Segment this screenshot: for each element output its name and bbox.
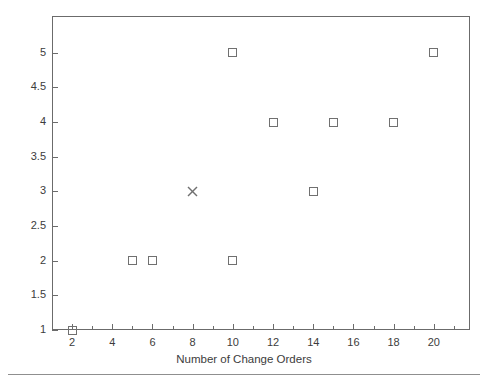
x-axis-tick-label: 12 [253, 336, 293, 349]
x-axis-minor-tick [253, 326, 254, 330]
y-axis-tick [52, 87, 58, 88]
y-axis-title-wrapper: Number of Conflicts [0, 16, 18, 330]
x-axis-minor-tick [213, 326, 214, 330]
data-point-square-marker[interactable] [309, 187, 318, 196]
x-axis-title: Number of Change Orders [0, 353, 488, 365]
data-point-square-marker[interactable] [228, 48, 237, 57]
x-axis-minor-tick [92, 326, 93, 330]
scatter-plot-figure: 246810121416182011.522.533.544.55 Number… [0, 0, 488, 370]
x-axis-minor-tick [132, 326, 133, 330]
y-axis-title: Number of Conflicts [4, 0, 20, 64]
data-point-x-marker[interactable] [187, 186, 198, 197]
x-axis-tick [112, 324, 113, 330]
data-point-square-marker[interactable] [389, 118, 398, 127]
y-axis-tick [52, 295, 58, 296]
x-axis-tick [313, 324, 314, 330]
x-axis-tick [394, 324, 395, 330]
x-axis-tick [434, 324, 435, 330]
y-axis-tick [52, 157, 58, 158]
x-axis-minor-tick [293, 326, 294, 330]
y-axis-tick [52, 330, 58, 331]
x-axis-tick [233, 324, 234, 330]
data-point-square-marker[interactable] [429, 48, 438, 57]
x-axis-tick [152, 324, 153, 330]
x-axis-minor-tick [454, 326, 455, 330]
data-point-square-marker[interactable] [68, 326, 77, 335]
x-axis-tick-label: 2 [52, 336, 92, 349]
x-axis-minor-tick [173, 326, 174, 330]
data-point-square-marker[interactable] [148, 256, 157, 265]
y-axis-tick [52, 226, 58, 227]
data-point-square-marker[interactable] [269, 118, 278, 127]
x-axis-tick-label: 14 [293, 336, 333, 349]
data-point-square-marker[interactable] [128, 256, 137, 265]
x-axis-tick-label: 18 [374, 336, 414, 349]
y-axis-tick [52, 53, 58, 54]
x-axis-minor-tick [374, 326, 375, 330]
x-axis-minor-tick [333, 326, 334, 330]
chart-page: 246810121416182011.522.533.544.55 Number… [0, 0, 488, 382]
y-axis-tick [52, 261, 58, 262]
plot-frame [52, 16, 470, 330]
x-axis-tick-label: 16 [333, 336, 373, 349]
x-axis-tick-label: 6 [132, 336, 172, 349]
data-point-square-marker[interactable] [329, 118, 338, 127]
x-axis-tick [193, 324, 194, 330]
x-axis-tick-label: 10 [213, 336, 253, 349]
data-point-square-marker[interactable] [228, 256, 237, 265]
y-axis-tick [52, 191, 58, 192]
x-axis-tick [353, 324, 354, 330]
x-axis-tick-label: 20 [414, 336, 454, 349]
x-axis-tick [273, 324, 274, 330]
x-axis-tick-label: 8 [173, 336, 213, 349]
y-axis-tick [52, 122, 58, 123]
x-axis-minor-tick [414, 326, 415, 330]
footer-divider [8, 374, 480, 375]
x-axis-tick-label: 4 [92, 336, 132, 349]
